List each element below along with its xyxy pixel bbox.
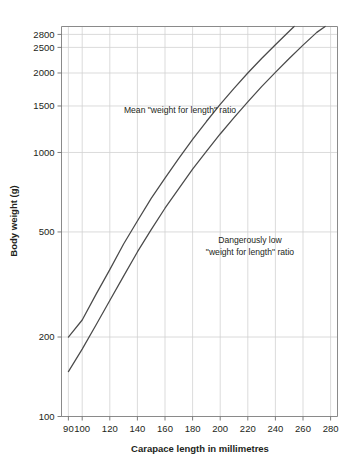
x-tick-label: 160 (157, 423, 173, 434)
y-tick-label: 2800 (33, 29, 54, 40)
x-tick-label: 280 (323, 423, 339, 434)
y-tick-label: 1500 (33, 100, 54, 111)
x-tick-label: 180 (185, 423, 201, 434)
x-tick-labels: 90100120140160180200220240260280 (63, 423, 338, 434)
y-tick-label: 200 (39, 331, 55, 342)
x-tick-label: 260 (295, 423, 311, 434)
chart-figure: 10020050010001500200025002800 9010012014… (0, 0, 356, 466)
y-tick-label: 2500 (33, 42, 54, 53)
annotation-mean-ratio: Mean "weight for length" ratio (124, 105, 236, 115)
y-tick-label: 2000 (33, 67, 54, 78)
plot-area-background (62, 27, 338, 417)
y-axis-title: Body weight (g) (8, 185, 19, 256)
x-tick-label: 220 (240, 423, 256, 434)
y-tick-label: 1000 (33, 147, 54, 158)
x-tick-label: 200 (212, 423, 228, 434)
x-tick-label: 100 (74, 423, 90, 434)
x-axis-title: Carapace length in millimetres (131, 443, 269, 454)
annotation-dangerously-low-line2: "weight for length" ratio (206, 247, 294, 257)
chart-canvas: 10020050010001500200025002800 9010012014… (0, 0, 356, 466)
y-tick-labels: 10020050010001500200025002800 (33, 29, 54, 422)
y-tick-label: 100 (39, 411, 55, 422)
x-tick-label: 120 (102, 423, 118, 434)
x-tick-label: 240 (267, 423, 283, 434)
x-tick-label: 90 (63, 423, 74, 434)
annotation-dangerously-low-line1: Dangerously low (218, 235, 282, 245)
y-tick-label: 500 (39, 226, 55, 237)
x-tick-label: 140 (129, 423, 145, 434)
